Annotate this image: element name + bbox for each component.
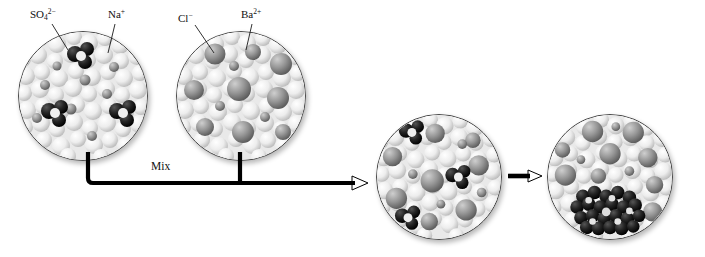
diagram-canvas: SO42− Na+ Cl− Ba2+ Mix (0, 0, 705, 257)
reaction-arrow (0, 0, 705, 257)
